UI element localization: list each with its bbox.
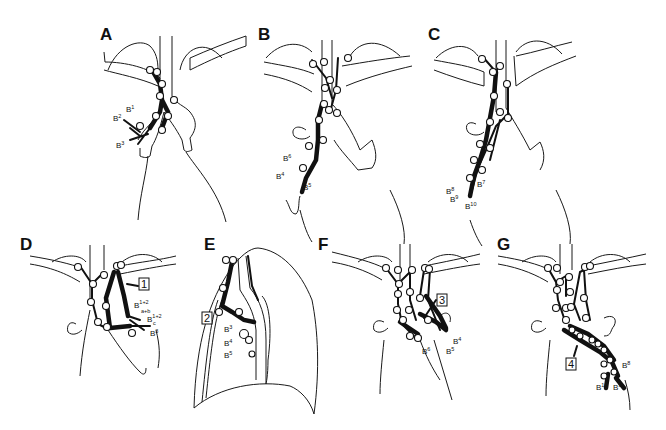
panel-b: B B6 B4 B5 xyxy=(258,25,412,244)
lymph-node xyxy=(400,317,407,324)
lymph-node xyxy=(316,117,323,124)
lymph-node xyxy=(159,127,166,134)
bronchus-label-b3: B3 xyxy=(224,324,232,334)
bronchus-label-b6: B6 xyxy=(283,153,291,163)
panel-label-d: D xyxy=(20,235,32,254)
callout-arrow xyxy=(127,284,138,286)
lymph-node xyxy=(334,87,341,94)
lymph-node xyxy=(327,77,334,84)
lymph-node xyxy=(589,337,595,343)
heart-border xyxy=(156,330,159,368)
lymph-node xyxy=(153,113,160,120)
bronchus-wall xyxy=(380,340,452,400)
bronchus-label-b4: B4 xyxy=(276,171,284,181)
panel-label-g: G xyxy=(497,235,510,254)
lymph-node xyxy=(103,303,110,310)
heart-border xyxy=(556,190,570,244)
lymph-node xyxy=(322,85,329,92)
bronchus-label-b5: B5 xyxy=(303,182,311,192)
lymph-node xyxy=(477,141,484,148)
lung-apex-left xyxy=(350,43,400,56)
clavicle-left xyxy=(190,36,246,70)
lymph-node xyxy=(569,327,575,333)
lymph-node xyxy=(426,266,433,273)
bronchus-label-b10: B10 xyxy=(465,201,476,211)
clavicle-left xyxy=(342,56,412,86)
lymph-node xyxy=(607,357,613,363)
trachea-wall xyxy=(172,36,195,150)
lymph-node xyxy=(306,143,313,150)
lymph-node xyxy=(487,119,494,126)
callout-number-1: 1 xyxy=(141,278,147,290)
bronchus-sub-c: c xyxy=(153,320,156,326)
lymph-node xyxy=(595,341,601,347)
right-upper-bronchus xyxy=(466,123,484,135)
lymph-node xyxy=(490,69,497,76)
lymph-node xyxy=(479,167,486,174)
right-upper-bronchus xyxy=(373,321,388,332)
lymph-node xyxy=(566,274,573,281)
left-upper-bronchus xyxy=(604,316,615,336)
lymph-node xyxy=(577,333,583,339)
lymph-node xyxy=(563,317,570,324)
lymph-node xyxy=(505,115,512,122)
figure-canvas: A B1 B2 B3 B xyxy=(0,0,666,430)
lymph-node xyxy=(545,265,552,272)
lung-apex xyxy=(52,255,162,263)
lymph-node xyxy=(310,61,317,68)
lymph-node xyxy=(88,299,95,306)
lymph-node xyxy=(147,67,154,74)
lymph-node xyxy=(236,309,243,316)
lymph-node xyxy=(497,63,504,70)
lymph-node xyxy=(611,369,617,375)
lymph-node xyxy=(345,55,352,62)
diaphragm xyxy=(194,384,314,414)
lymph-node xyxy=(157,93,164,100)
heart-border xyxy=(186,152,226,222)
clavicle-left xyxy=(514,42,576,86)
lymph-node xyxy=(407,333,414,340)
lymph-node xyxy=(425,317,432,324)
lymph-node xyxy=(90,281,97,288)
lung-apex-left xyxy=(516,41,562,54)
vessel-shaded xyxy=(248,256,258,300)
lymphatic-path xyxy=(106,272,130,328)
lymph-node xyxy=(504,81,511,88)
lymph-node xyxy=(95,319,102,326)
lymph-node xyxy=(165,113,172,120)
bronchus-wall xyxy=(80,310,146,376)
lymph-node xyxy=(568,304,575,311)
lymph-node xyxy=(321,59,328,66)
panel-c: C B8 B9 B7 B10 xyxy=(428,25,576,246)
bronchus-label-b7: B7 xyxy=(477,179,485,189)
heart-border xyxy=(138,156,148,220)
panel-f: F 3 B4 B5 B6 xyxy=(318,235,480,400)
lymph-node xyxy=(395,267,402,274)
right-upper-bronchus xyxy=(531,321,546,332)
panel-label-f: F xyxy=(318,235,328,254)
lymph-node xyxy=(246,337,253,344)
bronchus-label-b6: B6 xyxy=(422,346,430,356)
trachea-wall xyxy=(496,40,544,170)
lymph-node xyxy=(334,110,341,117)
panel-label-e: E xyxy=(204,235,215,254)
lymph-node xyxy=(171,97,178,104)
callout-arrow xyxy=(574,346,577,356)
callout-number-2: 2 xyxy=(204,312,210,324)
right-upper-bronchus xyxy=(293,127,310,139)
lymph-node xyxy=(249,351,255,357)
lymph-node xyxy=(601,373,607,379)
lymph-node xyxy=(137,123,144,130)
lymph-node xyxy=(581,295,588,302)
panel-g: G 4 B8 B9 B10 xyxy=(497,235,646,410)
heart-border xyxy=(390,190,404,244)
lymph-node xyxy=(601,361,607,367)
lymph-node xyxy=(587,263,594,270)
right-upper-bronchus xyxy=(67,323,82,334)
lymph-node xyxy=(223,257,230,264)
lymph-node xyxy=(320,137,327,144)
callout-number-4: 4 xyxy=(568,358,574,370)
lymph-node xyxy=(487,145,494,152)
lymph-node xyxy=(415,335,422,342)
lymph-node xyxy=(471,157,478,164)
